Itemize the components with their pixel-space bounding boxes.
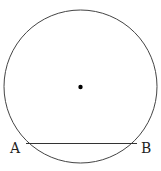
point-a-label: A — [9, 140, 21, 156]
center-point — [78, 85, 82, 89]
circle-diagram: A B — [0, 0, 161, 171]
point-b-label: B — [141, 140, 151, 156]
